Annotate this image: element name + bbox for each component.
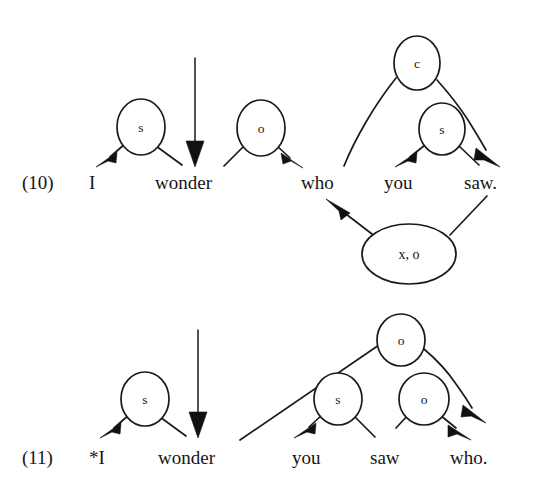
node-label: o xyxy=(421,392,428,407)
edge-c-to-who xyxy=(344,78,396,166)
node-o-top-ex11: o xyxy=(377,314,425,366)
arrowhead-s1-to-I xyxy=(96,152,117,167)
edge-s2-to-saw-ex11 xyxy=(354,416,375,437)
edge-o1-to-wonder xyxy=(224,145,245,166)
word-you-ex10: you xyxy=(384,172,413,193)
arrowhead-s2-to-you xyxy=(395,152,417,167)
example-11-group: s o s o (11) *I wonder you saw who. xyxy=(22,314,487,469)
node-label: x, o xyxy=(399,247,420,262)
word-saw-ex10: saw. xyxy=(464,172,497,193)
node-label: s xyxy=(138,120,143,135)
example-10-group: s o c s x, o (10) I wonder who you saw. xyxy=(22,36,500,284)
arrowhead-otop-to-who-ex11 xyxy=(461,405,486,423)
dependency-diagram-figure: s o c s x, o (10) I wonder who you saw. xyxy=(0,0,537,501)
node-s2-ex10: s xyxy=(419,103,465,155)
arrowhead-s2-to-you-ex11 xyxy=(294,423,316,438)
word-who-ex11: who. xyxy=(450,447,487,468)
node-label: s xyxy=(439,122,444,137)
word-wonder-ex10: wonder xyxy=(155,172,213,193)
arrowhead-xo-to-who xyxy=(326,199,350,220)
node-label: o xyxy=(258,121,265,136)
node-c-ex10: c xyxy=(394,36,440,90)
word-you-ex11: you xyxy=(292,447,321,468)
node-xo-ex10: x, o xyxy=(362,224,456,284)
node-o1-ex10: o xyxy=(237,100,285,156)
arrowhead-o1-to-who xyxy=(281,153,303,168)
edge-s1-to-wonder xyxy=(156,146,182,165)
word-wonder-ex11: wonder xyxy=(158,447,216,468)
node-label: s xyxy=(335,392,340,407)
arrowhead-o2-to-who-ex11 xyxy=(448,425,471,440)
node-label: c xyxy=(414,56,420,71)
word-I-ex10: I xyxy=(89,172,95,193)
example-number-10: (10) xyxy=(22,172,54,194)
example-number-11: (11) xyxy=(22,447,53,469)
node-s1-ex11: s xyxy=(121,372,169,426)
node-s1-ex10: s xyxy=(117,99,165,155)
node-o2-ex11: o xyxy=(399,373,449,425)
word-saw-ex11: saw xyxy=(370,447,400,468)
node-label: s xyxy=(142,392,147,407)
edge-s1-to-wonder-ex11 xyxy=(160,417,186,436)
word-who-ex10: who xyxy=(301,172,334,193)
node-s2-ex11: s xyxy=(314,373,362,425)
arrowhead-vertical-11 xyxy=(189,412,207,438)
arrowhead-vertical-10 xyxy=(186,141,204,167)
node-label: o xyxy=(398,333,405,348)
arrowhead-s1-to-I-ex11 xyxy=(100,423,121,438)
word-I-ex11: *I xyxy=(89,447,105,468)
edge-xo-to-saw xyxy=(450,196,487,235)
